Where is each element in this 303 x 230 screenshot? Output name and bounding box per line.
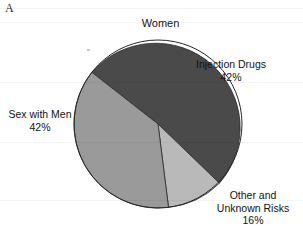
slice-label-sex-with-men-name: Sex with Men [8, 108, 71, 121]
slice-label-injection-drugs-name: Injection Drugs [196, 58, 266, 71]
slice-label-sex-with-men: Sex with Men 42% [8, 108, 71, 133]
slice-label-other-unknown-name-2: Unknown Risks [217, 202, 289, 215]
slice-label-other-unknown: Other and Unknown Risks 16% [217, 189, 289, 227]
slice-label-other-unknown-name-1: Other and [217, 189, 289, 202]
slice-label-sex-with-men-value: 42% [8, 121, 71, 134]
figure-panel-a: A Women Injection Drugs 42% Sex with Men… [0, 0, 303, 230]
slice-label-injection-drugs-value: 42% [196, 71, 266, 84]
slice-label-other-unknown-value: 16% [217, 214, 289, 227]
slice-label-injection-drugs: Injection Drugs 42% [196, 58, 266, 83]
